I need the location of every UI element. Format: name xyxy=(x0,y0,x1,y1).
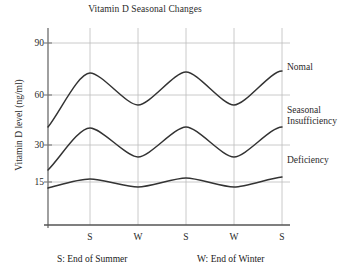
curve-deficiency xyxy=(48,177,282,188)
axis-lines xyxy=(44,28,290,228)
curve-normal xyxy=(48,71,282,127)
curve-seasonal-insufficiency xyxy=(48,127,282,170)
chart-figure: Vitamin D Seasonal Changes Vitamin D lev… xyxy=(0,0,349,277)
data-curves xyxy=(48,71,282,188)
gridlines xyxy=(48,28,290,225)
plot-area xyxy=(0,0,349,277)
